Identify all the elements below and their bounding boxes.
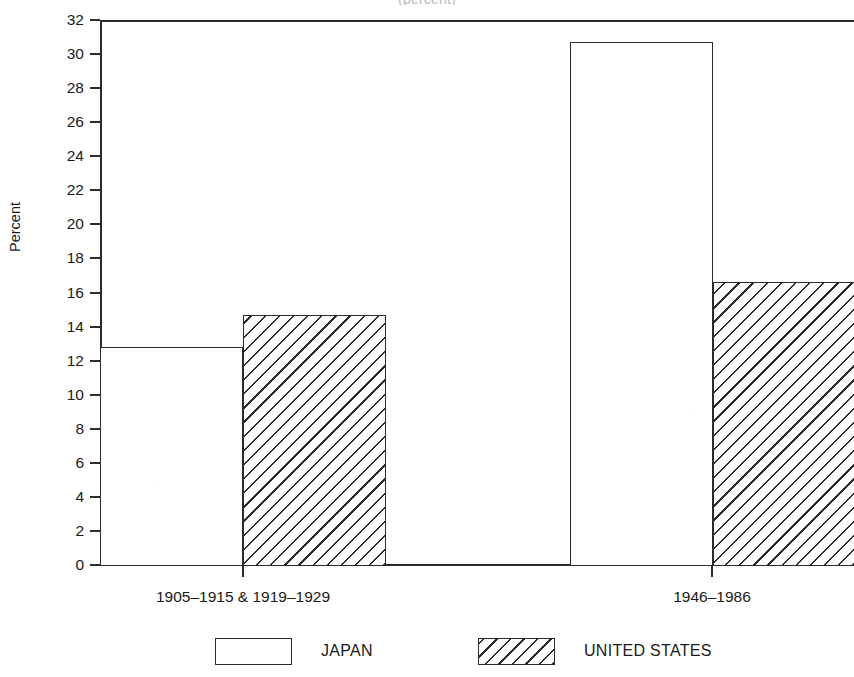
x-tick-mark: [711, 566, 713, 577]
y-tick-label: 8: [28, 421, 84, 436]
x-tick-mark: [242, 566, 244, 577]
y-tick-mark: [90, 360, 100, 362]
y-tick-label: 14: [28, 319, 84, 334]
y-tick-label: 26: [28, 114, 84, 129]
y-tick-mark: [90, 428, 100, 430]
y-tick-mark: [90, 462, 100, 464]
y-tick-label: 10: [28, 387, 84, 402]
y-tick-label: 24: [28, 148, 84, 163]
y-tick-mark: [90, 87, 100, 89]
y-tick-label: 18: [28, 250, 84, 265]
chart-subtitle: (percent): [0, 0, 854, 5]
chart-legend: JAPAN UNITED STATES: [0, 634, 854, 674]
bar-japan-group-2: [570, 42, 713, 566]
legend-item-japan[interactable]: JAPAN: [215, 634, 373, 668]
y-tick-mark: [90, 496, 100, 498]
y-tick-label: 20: [28, 216, 84, 231]
x-category-label: 1946–1986: [552, 588, 854, 606]
open-rectangle-swatch-icon: [215, 638, 292, 665]
y-tick-mark: [90, 530, 100, 532]
bar-japan-group-1: [100, 347, 243, 566]
hatched-rectangle-swatch-icon: [478, 638, 555, 665]
legend-item-united-states[interactable]: UNITED STATES: [478, 634, 712, 668]
y-tick-mark: [90, 121, 100, 123]
y-tick-mark: [90, 326, 100, 328]
y-tick-label: 4: [28, 489, 84, 504]
y-tick-mark: [90, 19, 100, 21]
y-tick-mark: [90, 189, 100, 191]
bar-united-states-group-2: [713, 282, 854, 566]
y-tick-label: 22: [28, 182, 84, 197]
y-tick-mark: [90, 564, 100, 566]
y-tick-label: 28: [28, 80, 84, 95]
x-category-label: 1905–1915 & 1919–1929: [83, 588, 403, 606]
y-tick-label: 16: [28, 285, 84, 300]
bar-chart: (percent) Percent 3230282624222018161412…: [0, 0, 854, 677]
y-tick-mark: [90, 53, 100, 55]
y-tick-label: 12: [28, 353, 84, 368]
y-tick-mark: [90, 223, 100, 225]
y-tick-mark: [90, 394, 100, 396]
y-tick-mark: [90, 257, 100, 259]
y-tick-label: 2: [28, 523, 84, 538]
y-axis-title: Percent: [7, 187, 23, 267]
y-tick-mark: [90, 155, 100, 157]
y-tick-label: 30: [28, 46, 84, 61]
bar-united-states-group-1: [243, 315, 386, 566]
y-tick-label: 6: [28, 455, 84, 470]
y-tick-mark: [90, 292, 100, 294]
y-tick-label: 0: [28, 557, 84, 572]
plot-top-border: [100, 20, 854, 22]
legend-label-united-states: UNITED STATES: [584, 642, 712, 660]
legend-label-japan: JAPAN: [321, 642, 373, 660]
y-tick-label: 32: [28, 12, 84, 27]
